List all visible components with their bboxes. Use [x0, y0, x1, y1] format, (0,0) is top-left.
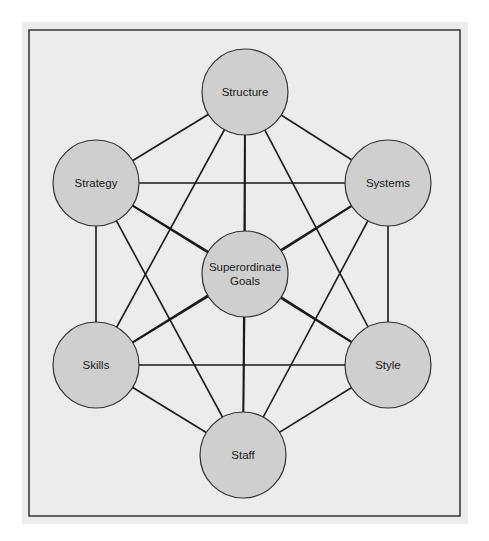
node-strategy: Strategy — [53, 140, 139, 226]
node-label: Structure — [222, 86, 269, 98]
seven-s-diagram: StructureStrategySystemsSuperordinateGoa… — [0, 0, 489, 541]
node-structure: Structure — [202, 49, 288, 135]
node-label: Goals — [230, 275, 260, 287]
node-label: Skills — [83, 359, 110, 371]
node-goals: SuperordinateGoals — [202, 231, 288, 317]
node-label: Staff — [231, 449, 255, 461]
node-style: Style — [345, 322, 431, 408]
node-staff: Staff — [200, 412, 286, 498]
node-label: Superordinate — [209, 261, 281, 273]
node-label: Style — [375, 359, 401, 371]
node-label: Strategy — [75, 177, 118, 189]
node-label: Systems — [366, 177, 410, 189]
node-skills: Skills — [53, 322, 139, 408]
node-systems: Systems — [345, 140, 431, 226]
node-circle — [202, 231, 288, 317]
